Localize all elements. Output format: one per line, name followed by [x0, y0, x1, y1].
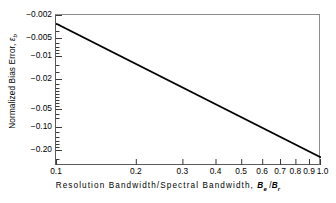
- x-tick-label: 0.4: [210, 166, 222, 176]
- x-tick-label: 0.2: [130, 166, 142, 176]
- plot-area: [55, 14, 320, 165]
- x-axis-tick-labels: 0.1 0.2 0.3 0.4 0.5 0.6 0.7 0.8 0.9 1.0: [0, 166, 336, 180]
- x-axis-title-text: Resolution Bandwidth/Spectral Bandwidth,: [56, 181, 258, 190]
- x-tick-label: 0.9: [303, 166, 315, 176]
- x-tick-label: 0.1: [50, 166, 62, 176]
- x-tick-label: 0.7: [274, 166, 286, 176]
- x-tick-label: 0.8: [290, 166, 302, 176]
- y-tick-label: −0.005: [6, 33, 52, 42]
- y-tick-label: −0.01: [6, 51, 52, 60]
- x-axis-title: Resolution Bandwidth/Spectral Bandwidth,…: [0, 181, 336, 192]
- y-tick-label: −0.10: [6, 122, 52, 131]
- x-tick-label: 0.6: [256, 166, 268, 176]
- x-tick-label: 0.5: [235, 166, 247, 176]
- data-series-line: [56, 24, 321, 158]
- x-tick-label: 1.0: [317, 166, 329, 176]
- x-axis-title-denominator-subscript: r: [278, 186, 281, 192]
- x-tick-label: 0.3: [177, 166, 189, 176]
- figure-container: Normalized Bias Error, εb −0.002 −0.005 …: [0, 0, 336, 203]
- x-major-ticks: [57, 159, 321, 165]
- plot-svg: [56, 15, 321, 166]
- y-minor-ticks: [56, 25, 60, 160]
- bias-error-line: [56, 24, 321, 158]
- y-tick-label: −0.02: [6, 74, 52, 83]
- y-tick-label: −0.05: [6, 104, 52, 113]
- y-tick-label: −0.002: [6, 10, 52, 19]
- y-major-ticks: [56, 16, 62, 151]
- y-tick-label: −0.20: [6, 145, 52, 154]
